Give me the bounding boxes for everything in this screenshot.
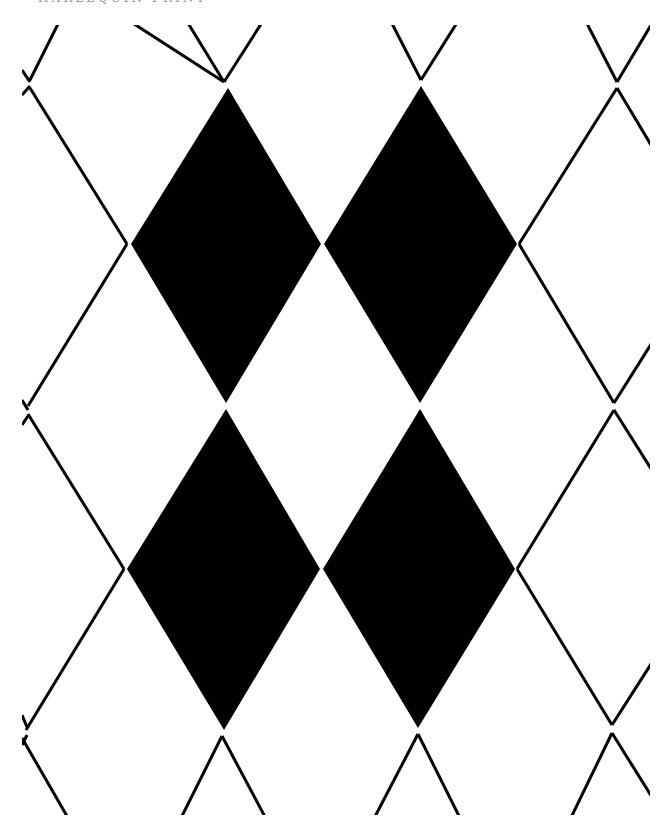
outline-line-10 (28, 244, 127, 406)
outline-line-6 (580, 10, 617, 82)
outline-line-5 (421, 10, 465, 80)
outline-line-26 (565, 733, 612, 830)
outline-line-4 (385, 10, 421, 80)
outline-line-18 (517, 569, 612, 725)
outline-line-12 (26, 569, 124, 730)
filled-diamond-3 (127, 409, 320, 730)
outline-line-15 (617, 88, 660, 160)
outline-line-2 (224, 10, 270, 82)
filled-diamond-2 (324, 86, 517, 403)
outline-line-32 (22, 715, 27, 727)
outline-line-27 (612, 733, 660, 810)
outline-line-22 (175, 736, 222, 830)
outline-line-11 (28, 414, 124, 569)
filled-diamond-4 (323, 409, 515, 728)
outline-line-8 (30, 10, 65, 80)
outline-line-21 (22, 738, 75, 830)
outline-line-1 (35, 0, 224, 82)
outline-lines (22, 0, 660, 830)
filled-diamond-1 (131, 88, 321, 403)
outline-line-16 (614, 330, 660, 403)
outline-line-14 (519, 244, 614, 403)
outline-line-9 (30, 88, 127, 244)
diamond-pattern (0, 0, 671, 836)
outline-line-13 (519, 88, 617, 244)
outline-line-20 (612, 650, 660, 725)
outline-line-19 (614, 410, 660, 483)
outline-line-7 (617, 10, 660, 82)
outline-line-3 (180, 10, 224, 82)
outline-line-17 (517, 410, 614, 569)
outline-line-31 (22, 416, 28, 425)
outline-line-25 (418, 734, 466, 830)
filled-diamonds (127, 86, 517, 730)
outline-line-28 (22, 70, 30, 82)
outline-line-29 (22, 86, 30, 95)
outline-line-24 (368, 734, 418, 830)
outline-line-23 (222, 736, 272, 830)
